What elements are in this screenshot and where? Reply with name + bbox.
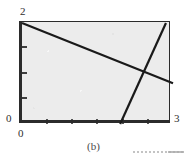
x-axis-min-label: 0 [18, 128, 24, 139]
x-axis-max-label: 3 [174, 113, 180, 124]
y-axis-min-label: 0 [6, 113, 12, 124]
y-axis-ticks [22, 47, 27, 98]
x-axis-ticks [47, 119, 148, 124]
y-axis-max-label: 2 [20, 6, 26, 17]
plot-canvas [22, 22, 173, 124]
ascending-constraint-line [120, 23, 166, 124]
plot-frame [19, 21, 170, 123]
figure-panel-b: 2 0 0 3 (b) [0, 0, 187, 162]
solid-scan-artifact [168, 151, 184, 153]
descending-constraint-line [22, 23, 173, 83]
